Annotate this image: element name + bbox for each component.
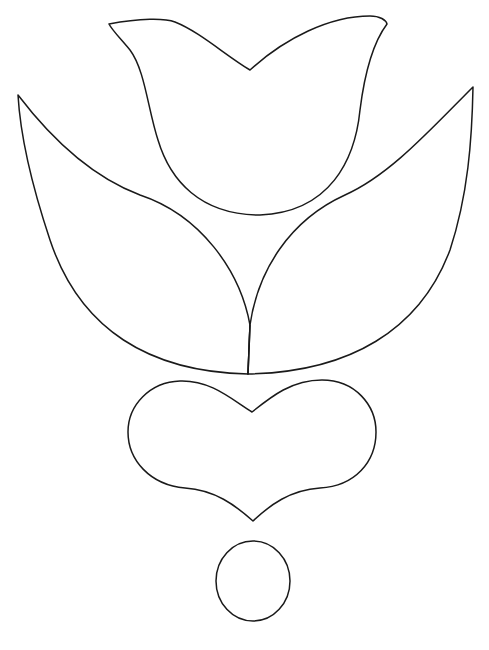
line-art (0, 0, 489, 650)
heart (128, 380, 376, 521)
tulip-flower (109, 16, 387, 215)
coloring-page-canvas: Tulip, heart and circle coloring page (0, 0, 489, 650)
circle (216, 541, 290, 621)
